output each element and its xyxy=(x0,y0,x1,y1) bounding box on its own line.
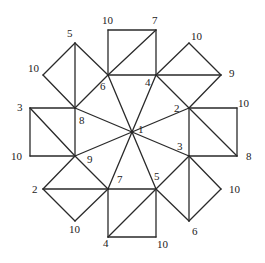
edge-o3-o5 xyxy=(156,156,189,189)
vertex-label-o3: 3 xyxy=(177,140,183,152)
vertex-label-o7: 7 xyxy=(117,173,123,185)
edge-ul10-ul5 xyxy=(43,43,75,75)
vertex-label-o8: 8 xyxy=(79,114,85,126)
edge-o4-o2 xyxy=(156,75,189,108)
edge-lr6-o5 xyxy=(156,189,189,221)
edge-o4-ur10 xyxy=(156,43,189,75)
vertex-label-c: 1 xyxy=(138,123,144,135)
edge-o8-ul10 xyxy=(43,75,75,108)
vertex-label-o2: 2 xyxy=(174,102,180,114)
vertex-label-ll2: 2 xyxy=(32,183,38,195)
vertex-label-lr10: 10 xyxy=(229,183,241,195)
edge-lr10-lr6 xyxy=(189,189,221,221)
vertex-label-t7: 7 xyxy=(152,14,158,26)
octagon-graph-diagram: 164235798107109108106104102103105 xyxy=(0,0,265,263)
vertex-label-b10: 10 xyxy=(157,238,169,250)
vertex-label-ur10: 10 xyxy=(191,30,203,42)
vertex-label-ul5: 5 xyxy=(67,27,73,39)
vertex-label-r8: 8 xyxy=(246,150,252,162)
edge-b4-o5 xyxy=(108,189,156,237)
edge-o7-ll10 xyxy=(75,189,108,221)
edge-o2-r8 xyxy=(189,108,237,156)
vertex-label-t10: 10 xyxy=(102,14,114,26)
vertex-label-o5: 5 xyxy=(154,170,160,182)
vertex-label-ll10: 10 xyxy=(69,223,81,235)
edge-ll2-o9 xyxy=(43,156,75,189)
vertex-label-lr6: 6 xyxy=(192,225,198,237)
edge-ll10-ll2 xyxy=(43,189,75,221)
edge-ul5-o6 xyxy=(75,43,108,75)
edge-o3-lr10 xyxy=(189,156,221,189)
vertex-label-o6: 6 xyxy=(100,80,106,92)
vertex-label-r10: 10 xyxy=(238,97,250,109)
edge-o6-t7 xyxy=(108,30,156,75)
edge-l3-o9 xyxy=(30,108,75,156)
vertex-label-o4: 4 xyxy=(145,76,151,88)
edge-ur9-o2 xyxy=(189,75,221,108)
vertex-label-ul10: 10 xyxy=(28,62,40,74)
edge-ur10-ur9 xyxy=(189,43,221,75)
vertex-label-o9: 9 xyxy=(87,153,93,165)
vertex-label-l3: 3 xyxy=(17,101,23,113)
vertex-label-b4: 4 xyxy=(103,237,109,249)
vertex-label-l10: 10 xyxy=(11,150,23,162)
edges-group xyxy=(30,30,237,237)
vertex-label-ur9: 9 xyxy=(229,67,235,79)
